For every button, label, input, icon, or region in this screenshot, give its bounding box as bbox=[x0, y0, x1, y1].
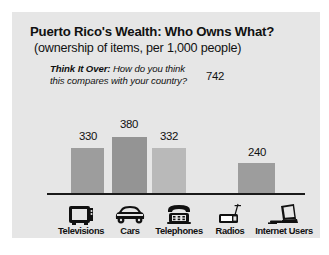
category-radios: Radios bbox=[207, 203, 253, 236]
category-label: Telephones bbox=[150, 226, 208, 236]
radio-icon bbox=[207, 203, 253, 225]
bar-value-label-cars: 380 bbox=[111, 118, 147, 130]
category-label: Internet Users bbox=[251, 226, 317, 236]
computer-icon bbox=[251, 203, 317, 225]
category-telephones: Telephones bbox=[150, 203, 208, 236]
television-icon bbox=[53, 203, 109, 225]
bar-internet-users bbox=[238, 163, 275, 193]
bar-televisions bbox=[71, 148, 104, 193]
category-label: Televisions bbox=[53, 226, 109, 236]
bar-value-label-telephones: 332 bbox=[151, 130, 187, 142]
category-label: Cars bbox=[110, 226, 150, 236]
bar-telephones bbox=[152, 148, 186, 193]
category-cars: Cars bbox=[110, 203, 150, 236]
car-icon bbox=[110, 203, 150, 225]
category-label: Radios bbox=[207, 226, 253, 236]
infographic-panel: Puerto Rico's Wealth: Who Owns What? (ow… bbox=[12, 12, 320, 238]
bar-value-label-televisions: 330 bbox=[70, 130, 106, 142]
bar-value-label-internet-users: 240 bbox=[238, 146, 276, 158]
category-internet-users: Internet Users bbox=[251, 203, 317, 236]
bar-cars bbox=[112, 137, 147, 193]
bar-chart-plot: 742 330 380 332 240 bbox=[12, 12, 320, 238]
bar-value-label-radios: 742 bbox=[192, 70, 238, 82]
telephone-icon bbox=[150, 203, 208, 225]
category-televisions: Televisions bbox=[53, 203, 109, 236]
category-axis: Televisions Cars bbox=[47, 194, 309, 236]
